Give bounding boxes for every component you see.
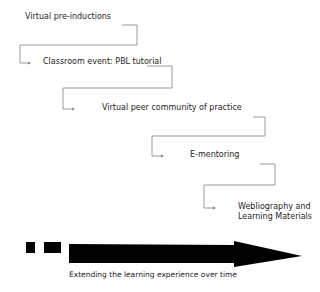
step-webliography-line2: Learning Materials <box>238 212 312 222</box>
step-classroom-event: Classroom event: PBL tutorial <box>43 57 162 67</box>
step-virtual-pre-inductions: Virtual pre-inductions <box>25 12 111 22</box>
timeline-dash-1 <box>26 242 35 253</box>
timeline-caption: Extending the learning experience over t… <box>69 270 237 279</box>
step-e-mentoring: E-mentoring <box>190 150 239 160</box>
timeline-arrow <box>26 241 302 267</box>
timeline-dash-2 <box>44 242 61 253</box>
arrowhead-icon <box>213 207 216 210</box>
arrowhead-icon <box>72 108 75 111</box>
step-virtual-peer-community: Virtual peer community of practice <box>102 103 242 113</box>
step-connectors <box>0 0 320 292</box>
step-webliography-line1: Webliography and <box>238 202 311 212</box>
arrowhead-icon <box>28 62 31 65</box>
arrowhead-icon <box>161 155 164 158</box>
timeline-arrow-body <box>69 241 302 267</box>
